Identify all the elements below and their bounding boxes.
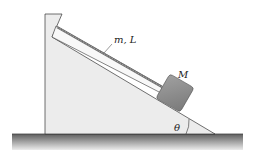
ground [12, 134, 243, 150]
block-label: M [177, 69, 189, 80]
rope-label: m, L [114, 34, 137, 45]
angle-label: θ [174, 122, 180, 133]
incline-diagram: m, L M θ [0, 0, 257, 156]
rope-label-leader [104, 44, 112, 53]
